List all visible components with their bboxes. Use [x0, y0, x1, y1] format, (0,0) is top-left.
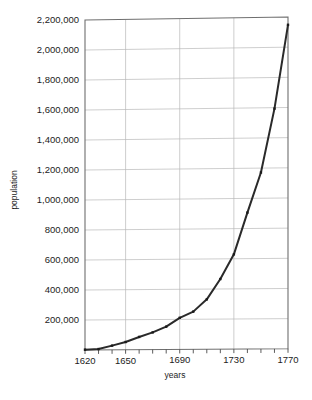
grid-line-horizontal	[85, 228, 288, 230]
data-point-marker	[124, 341, 126, 343]
x-axis-tick-label: 1770	[277, 354, 298, 365]
population-series	[84, 24, 289, 351]
data-point-marker	[206, 298, 208, 300]
y-axis-tick-label: 1,600,000	[37, 104, 79, 115]
y-axis-tick-label: 2,200,000	[37, 14, 79, 25]
x-axis-tick-labels: 16201650169017301770	[74, 354, 298, 366]
grid-line-horizontal	[85, 47, 288, 50]
grid-line-horizontal	[85, 258, 288, 260]
data-point-marker	[84, 348, 86, 350]
data-point-marker	[138, 336, 140, 338]
population-line	[85, 25, 288, 350]
data-point-marker	[192, 310, 194, 312]
grid-line-horizontal	[85, 168, 288, 170]
chart-page: 16201650169017301770 200,000400,000600,0…	[0, 0, 312, 400]
y-axis-tick-label: 2,000,000	[37, 44, 79, 55]
grid-line-horizontal	[85, 138, 288, 140]
data-point-marker	[97, 348, 99, 350]
x-axis-tick-label: 1690	[169, 354, 190, 365]
grid-line-horizontal	[85, 319, 288, 320]
x-axis-tick-label: 1730	[223, 354, 244, 365]
grid-line-horizontal	[85, 107, 288, 110]
grid-line-horizontal	[85, 288, 288, 290]
y-axis-tick-labels: 200,000400,000600,000800,0001,000,0001,2…	[37, 14, 79, 325]
y-axis-tick-label: 1,400,000	[37, 134, 79, 145]
y-axis-tick-label: 200,000	[45, 314, 79, 325]
y-axis-title: population	[9, 170, 19, 210]
data-point-marker	[151, 331, 153, 333]
y-axis-tick-label: 600,000	[45, 254, 79, 265]
y-axis-tick-label: 800,000	[45, 224, 79, 235]
y-axis-tick-label: 1,800,000	[37, 74, 79, 85]
y-axis-tick-label: 400,000	[45, 284, 79, 295]
data-point-marker	[260, 171, 262, 173]
x-axis-tick-label: 1650	[115, 355, 136, 366]
y-axis-tick-label: 1,000,000	[37, 194, 79, 205]
data-point-marker	[273, 107, 275, 109]
x-axis-title: years	[165, 370, 186, 380]
data-point-marker	[165, 325, 167, 327]
x-axis-tick-label: 1620	[74, 355, 95, 366]
data-point-marker	[219, 278, 221, 280]
data-point-marker	[287, 24, 289, 26]
population-growth-line-chart: 16201650169017301770 200,000400,000600,0…	[0, 0, 312, 400]
data-point-marker	[246, 211, 248, 213]
y-axis-tick-label: 1,200,000	[37, 164, 79, 175]
grid-line-horizontal	[85, 77, 288, 80]
data-point-marker	[233, 253, 235, 255]
grid-line-horizontal	[85, 198, 288, 200]
data-point-marker	[111, 344, 113, 346]
data-point-marker	[179, 317, 181, 319]
